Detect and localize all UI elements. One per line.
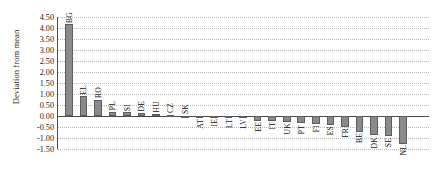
bar-category-label: RO (93, 87, 102, 98)
y-axis-tick-label: 0.50 (40, 101, 54, 110)
bar (94, 100, 102, 117)
bar-category-label: LV (239, 119, 248, 129)
bar-group: FI (312, 17, 320, 149)
bar-category-label: EE (253, 122, 262, 132)
bar (268, 116, 276, 121)
bar (254, 116, 262, 121)
bar-group: IE (210, 17, 218, 149)
bar (283, 116, 291, 122)
bar (370, 116, 378, 135)
bar (138, 113, 146, 116)
y-axis-tick-labels: 4.504.003.503.002.502.001.501.000.500.00… (22, 17, 54, 149)
bar (399, 116, 407, 144)
bar-group: ES (327, 17, 335, 149)
bar-category-label: ES (326, 126, 335, 135)
bar-group: EL (80, 17, 88, 149)
bar-category-label: BG (64, 12, 73, 23)
y-axis-line (57, 17, 58, 149)
bar-category-label: AT (195, 119, 204, 129)
bar-category-label: HU (151, 101, 160, 112)
gridline (57, 149, 429, 150)
plot-area: BGELROPLSIDEHUCZSKATIELTLVEEITUKPTFIESFR… (57, 17, 429, 149)
bar (196, 116, 204, 118)
bar-group: PT (297, 17, 305, 149)
bar-category-label: DK (369, 137, 378, 148)
bar-series: BGELROPLSIDEHUCZSKATIELTLVEEITUKPTFIESFR… (57, 17, 429, 149)
bar (239, 116, 247, 118)
y-axis-tick-label: -1.00 (37, 134, 54, 143)
y-axis-tick-label: 4.00 (40, 24, 54, 33)
bar-group: EE (254, 17, 262, 149)
bar-group: DE (138, 17, 146, 149)
bar-category-label: FI (311, 125, 320, 132)
bar-group: LV (239, 17, 247, 149)
bar (152, 114, 160, 116)
bar-group: NL (399, 17, 407, 149)
bar-group: AT (196, 17, 204, 149)
bar-category-label: NL (398, 145, 407, 156)
bar-category-label: SK (181, 104, 190, 114)
y-axis-tick-label: 2.50 (40, 57, 54, 66)
y-axis-title: Deviation from mean (11, 7, 21, 127)
y-axis-tick-label: 1.50 (40, 79, 54, 88)
bar-category-label: DE (137, 101, 146, 112)
bar-category-label: PT (297, 125, 306, 134)
bar-category-label: SI (122, 104, 131, 111)
bar-group: RO (94, 17, 102, 149)
bar-group: IT (268, 17, 276, 149)
y-axis-tick-label: 3.00 (40, 46, 54, 55)
bar-category-label: BE (355, 133, 364, 143)
bar-group: PL (109, 17, 117, 149)
bar-group: DK (370, 17, 378, 149)
bar (65, 24, 73, 116)
bar-category-label: SE (384, 138, 393, 147)
bar-group: FR (341, 17, 349, 149)
bar (123, 112, 131, 116)
bar-group: CZ (167, 17, 175, 149)
bar-group: SI (123, 17, 131, 149)
bar-group: SE (385, 17, 393, 149)
bar (327, 116, 335, 125)
bar-chart: Deviation from mean 4.504.003.503.002.50… (0, 0, 432, 184)
y-axis-tick-label: -1.50 (37, 145, 54, 154)
bar-category-label: UK (282, 123, 291, 134)
y-axis-tick-label: 4.50 (40, 13, 54, 22)
bar (356, 116, 364, 132)
bar-category-label: CZ (166, 103, 175, 113)
bar (225, 116, 233, 118)
bar-category-label: FR (340, 128, 349, 138)
bar (312, 116, 320, 124)
bar-group: BG (65, 17, 73, 149)
bar-category-label: LT (224, 119, 233, 128)
bar-group: UK (283, 17, 291, 149)
y-axis-tick-label: 3.50 (40, 35, 54, 44)
bar (385, 116, 393, 136)
bar (109, 112, 117, 116)
bar (181, 116, 189, 118)
y-axis-tick-label: -0.50 (37, 123, 54, 132)
bar (167, 115, 175, 117)
bar (341, 116, 349, 127)
bar (297, 116, 305, 123)
bar-group: HU (152, 17, 160, 149)
bar-category-label: PL (108, 101, 117, 110)
y-axis-tick-label: 2.00 (40, 68, 54, 77)
bar (80, 96, 88, 116)
bar-category-label: IT (268, 122, 277, 130)
bar-category-label: EL (79, 85, 88, 95)
bar-group: SK (181, 17, 189, 149)
bar-group: LT (225, 17, 233, 149)
bar-category-label: IE (210, 119, 219, 127)
bar-group: BE (356, 17, 364, 149)
y-axis-tick-label: 1.00 (40, 90, 54, 99)
y-axis-tick-label: 0.00 (40, 112, 54, 121)
